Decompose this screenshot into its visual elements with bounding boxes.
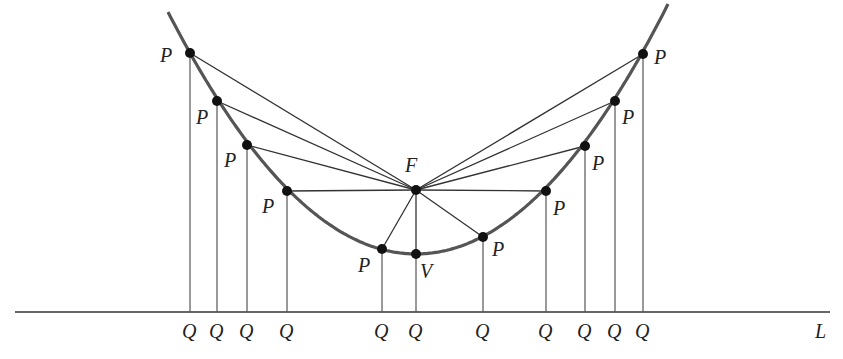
point-label-p: P: [591, 152, 604, 174]
projection-label-q: Q: [209, 320, 224, 342]
projection-label-q: Q: [408, 320, 423, 342]
projection-label-q: Q: [182, 320, 197, 342]
point-p: [541, 186, 551, 196]
point-label-p: P: [357, 254, 370, 276]
projection-label-q: Q: [374, 320, 389, 342]
parabola-curve: [168, 4, 668, 254]
projection-label-q: Q: [538, 320, 553, 342]
point-p: [610, 96, 620, 106]
focal-line: [416, 190, 483, 237]
projection-label-q: Q: [279, 320, 294, 342]
point-label-p: P: [653, 46, 666, 68]
focal-line: [382, 190, 416, 249]
vertex-label: V: [420, 260, 435, 282]
parabola-diagram: PPPPPPPPPPFVQQQQQQQQQQQL: [0, 0, 843, 359]
focus-label: F: [404, 154, 418, 176]
projection-label-q: Q: [577, 320, 592, 342]
point-label-p: P: [552, 197, 565, 219]
point-p: [580, 141, 590, 151]
projection-label-q: Q: [239, 320, 254, 342]
point-p: [478, 232, 488, 242]
vertex-point: [411, 249, 421, 259]
focal-line: [416, 190, 546, 191]
directrix-label: L: [814, 320, 826, 342]
point-label-p: P: [491, 238, 504, 260]
point-label-p: P: [261, 195, 274, 217]
point-p: [377, 244, 387, 254]
point-p: [282, 186, 292, 196]
projection-label-q: Q: [607, 320, 622, 342]
focal-line: [416, 54, 643, 190]
point-p: [242, 140, 252, 150]
focus-point: [411, 185, 421, 195]
point-label-p: P: [195, 106, 208, 128]
point-p: [638, 49, 648, 59]
point-p: [185, 48, 195, 58]
point-label-p: P: [223, 149, 236, 171]
point-p: [212, 96, 222, 106]
projection-label-q: Q: [475, 320, 490, 342]
projection-label-q: Q: [635, 320, 650, 342]
point-label-p: P: [621, 106, 634, 128]
point-label-p: P: [159, 44, 172, 66]
focal-line: [287, 190, 416, 191]
parabola-figure: PPPPPPPPPPFVQQQQQQQQQQQL: [0, 0, 843, 359]
